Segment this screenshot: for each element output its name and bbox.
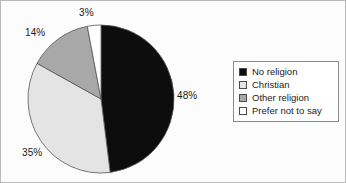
legend-item-other-religion: Other religion xyxy=(239,92,333,104)
legend-label-prefer-not-to-say: Prefer not to say xyxy=(252,106,322,116)
slice-value-label-christian: 35% xyxy=(22,148,42,158)
legend-swatch-icon-prefer-not-to-say xyxy=(239,107,247,115)
slice-value-label-other-religion: 14% xyxy=(25,28,45,38)
legend-label-christian: Christian xyxy=(252,80,290,90)
legend-label-other-religion: Other religion xyxy=(252,93,309,103)
legend-item-no-religion: No religion xyxy=(239,66,333,78)
legend-item-christian: Christian xyxy=(239,79,333,91)
slice-value-label-prefer-not-to-say: 3% xyxy=(79,8,94,18)
legend-swatch-icon-other-religion xyxy=(239,94,247,102)
pie-slice xyxy=(101,25,174,172)
chart-legend: No religion Christian Other religion Pre… xyxy=(233,61,339,122)
legend-swatch-icon-no-religion xyxy=(239,68,247,76)
pie-svg xyxy=(27,24,175,174)
legend-swatch-icon-christian xyxy=(239,81,247,89)
pie-chart-graphic xyxy=(27,24,175,174)
legend-label-no-religion: No religion xyxy=(252,67,297,77)
pie-slices-group xyxy=(28,25,174,173)
pie-chart-figure: 48% 35% 14% 3% No religion Christian Oth… xyxy=(0,0,346,183)
slice-value-label-no-religion: 48% xyxy=(177,91,197,101)
legend-item-prefer-not-to-say: Prefer not to say xyxy=(239,105,333,117)
